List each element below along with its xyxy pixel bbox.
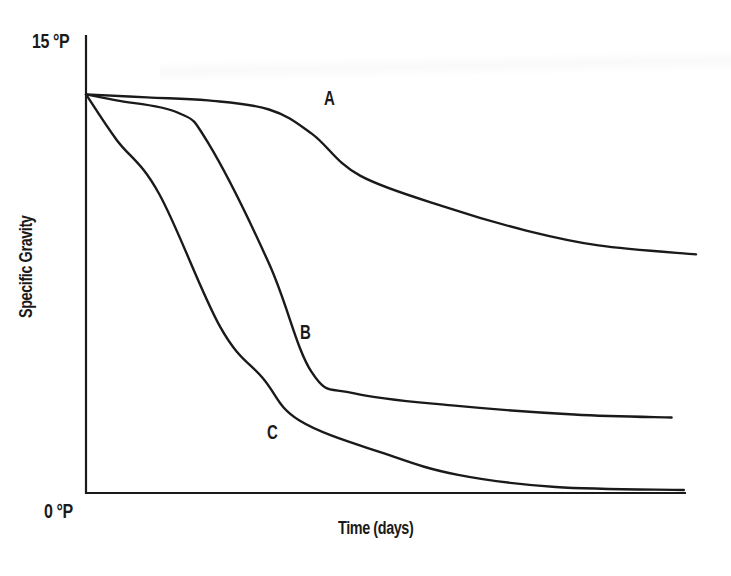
y-axis-label: Specific Gravity — [16, 216, 37, 318]
y-tick-top: 15 °P — [32, 30, 69, 53]
curve-c-label: C — [267, 421, 277, 444]
chart-canvas — [0, 0, 731, 576]
y-tick-bottom: 0 °P — [44, 500, 73, 523]
curve-b-label: B — [300, 321, 310, 344]
curve-b — [86, 94, 672, 417]
curve-a-label: A — [324, 87, 334, 110]
x-axis-label: Time (days) — [338, 518, 413, 539]
curve-c — [86, 94, 684, 490]
